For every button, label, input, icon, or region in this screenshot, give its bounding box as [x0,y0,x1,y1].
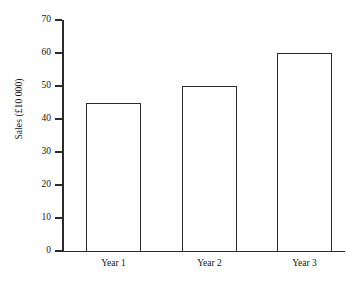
y-axis-tick-label: 30 [11,147,51,157]
y-axis-tick-label: 20 [11,180,51,190]
y-axis-tick [55,250,62,251]
y-axis-tick [55,52,62,53]
y-axis-tick [55,217,62,218]
y-axis-tick-label: 40 [11,114,51,124]
x-axis-category-label: Year 1 [74,258,154,268]
y-axis-tick-label: 60 [11,48,51,58]
x-axis-category-label: Year 3 [265,258,345,268]
x-axis-category-label: Year 2 [170,258,250,268]
y-axis-tick [55,184,62,185]
bar [182,86,237,251]
y-axis-tick-label: 50 [11,81,51,91]
y-axis-title: Sales (£10 000) [14,64,24,154]
y-axis-tick-label: 0 [11,246,51,256]
y-axis-line [62,20,64,252]
y-axis-tick [55,151,62,152]
bar [277,53,332,251]
bar-chart: Sales (£10 000) 010203040506070 Year 1Ye… [0,0,347,281]
y-axis-tick-label: 70 [11,15,51,25]
y-axis-tick [55,85,62,86]
y-axis-tick-label: 10 [11,213,51,223]
y-axis-tick [55,118,62,119]
bar [86,103,141,252]
y-axis-tick [55,19,62,20]
